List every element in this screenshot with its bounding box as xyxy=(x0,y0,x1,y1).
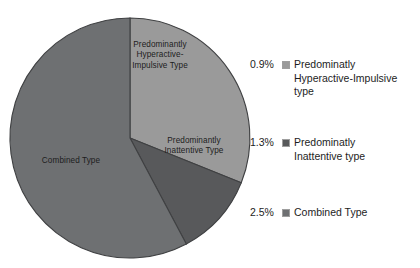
legend-percent: 0.9% xyxy=(250,58,282,72)
legend-label: Combined Type xyxy=(294,206,420,220)
pie-slice-label-inattentive: Predominantly Inattentive Type xyxy=(146,136,242,157)
legend-item-combined[interactable]: 2.5% Combined Type xyxy=(250,206,420,220)
legend-swatch-icon xyxy=(282,209,290,217)
pie-chart: Predominantly Hyperactive- Impulsive Typ… xyxy=(0,8,262,268)
legend-item-hyperactive-impulsive[interactable]: 0.9% Predominatly Hyperactive-Impulsive … xyxy=(250,58,420,99)
legend-percent: 1.3% xyxy=(250,136,282,150)
legend-item-inattentive[interactable]: 1.3% Predominatly Inattentive type xyxy=(250,136,420,163)
chart-legend: 0.9% Predominatly Hyperactive-Impulsive … xyxy=(250,0,420,268)
legend-label: Predominatly Hyperactive-Impulsive type xyxy=(294,58,420,99)
pie-chart-figure: Predominantly Hyperactive- Impulsive Typ… xyxy=(0,0,420,268)
pie-slice-label-hyperactive-impulsive: Predominantly Hyperactive- Impulsive Typ… xyxy=(112,40,208,71)
legend-label: Predominatly Inattentive type xyxy=(294,136,420,163)
legend-percent: 2.5% xyxy=(250,206,282,220)
pie-slice-label-combined: Combined Type xyxy=(23,156,119,166)
legend-swatch-icon xyxy=(282,61,290,69)
legend-swatch-icon xyxy=(282,139,290,147)
